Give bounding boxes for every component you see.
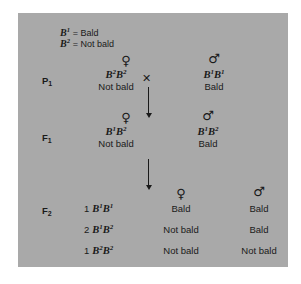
table-row: 1B2B2 Not bald Not bald bbox=[84, 245, 288, 261]
f2-male-column-header-icon: ♂ bbox=[229, 185, 289, 198]
legend-allele-symbol: B2 bbox=[60, 38, 70, 49]
legend-allele-meaning: = Bald bbox=[73, 28, 99, 38]
f2-genotype-cell: 2B1B2 bbox=[84, 224, 150, 235]
table-row: 1B1B1 Bald Bald bbox=[84, 203, 288, 219]
f1-female-individual: B1B2 Not bald bbox=[66, 126, 166, 150]
pedigree-cross-diagram: B1 = Bald B2 = Not bald P1 ♀ B2B2 Not ba… bbox=[18, 13, 288, 267]
generation-label-p1: P1 bbox=[42, 75, 52, 86]
f2-male-phenotype-cell: Bald bbox=[224, 203, 294, 214]
generation-label-f2: F2 bbox=[42, 205, 52, 216]
allele-legend: B1 = Bald B2 = Not bald bbox=[60, 27, 114, 49]
female-symbol-icon: ♀ bbox=[116, 111, 136, 124]
male-symbol-icon: ♂ bbox=[204, 52, 224, 65]
arrow-p1-to-f1 bbox=[144, 87, 153, 119]
f2-genotype-cell: 1B1B1 bbox=[84, 203, 150, 214]
f1-male-phenotype: Bald bbox=[158, 138, 258, 150]
f2-genotype-cell: 1B2B2 bbox=[84, 245, 150, 256]
f1-female-genotype: B1B2 bbox=[66, 126, 166, 138]
diagram-page: B1 = Bald B2 = Not bald P1 ♀ B2B2 Not ba… bbox=[0, 0, 301, 284]
male-symbol-icon: ♂ bbox=[198, 109, 218, 122]
p1-male-phenotype: Bald bbox=[164, 81, 264, 93]
p1-male-individual: B1B1 Bald bbox=[164, 69, 264, 93]
cross-symbol-icon: ✕ bbox=[142, 73, 151, 84]
f2-female-column-header-icon: ♀ bbox=[151, 187, 211, 200]
f2-female-phenotype-cell: Not bald bbox=[146, 224, 216, 235]
generation-label-f1: F1 bbox=[42, 132, 52, 143]
f1-male-individual: B1B2 Bald bbox=[158, 126, 258, 150]
f1-female-phenotype: Not bald bbox=[66, 138, 166, 150]
f2-female-phenotype-cell: Not bald bbox=[146, 245, 216, 256]
p1-male-genotype: B1B1 bbox=[164, 69, 264, 81]
f2-female-phenotype-cell: Bald bbox=[146, 203, 216, 214]
f2-male-phenotype-cell: Not bald bbox=[224, 245, 294, 256]
legend-allele-meaning: = Not bald bbox=[73, 39, 114, 49]
legend-row: B2 = Not bald bbox=[60, 38, 114, 49]
female-symbol-icon: ♀ bbox=[116, 54, 136, 67]
f2-male-phenotype-cell: Bald bbox=[224, 224, 294, 235]
f1-male-genotype: B1B2 bbox=[158, 126, 258, 138]
table-row: 2B1B2 Not bald Bald bbox=[84, 224, 288, 240]
